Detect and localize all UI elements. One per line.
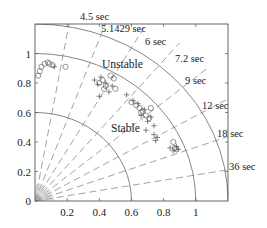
period-label: 6 sec [145,36,167,47]
cross-marker [92,77,98,83]
period-line [35,0,74,201]
x-tick-label: 0.4 [92,206,106,218]
circle-marker [171,139,176,144]
pole-zero-chart: 0.20.40.60.81 00.20.40.60.81 4.5 sec5.14… [0,0,267,228]
cross-marker [167,145,173,151]
y-tick-label: 0.8 [17,77,31,89]
cross-marker [175,147,181,153]
circle-marker [42,61,47,66]
x-tick-label: 0.8 [157,206,171,218]
period-line [35,98,230,201]
cross-marker [151,123,157,129]
circle-marker [113,86,118,91]
y-tick-label: 1 [26,48,32,60]
x-tick-label: 0.6 [125,206,139,218]
cross-marker [145,119,151,125]
region-label: Unstable [102,58,143,70]
circle-marker [47,61,52,66]
cross-marker [124,92,130,98]
period-line [35,130,247,201]
cross-marker [95,82,101,88]
cross-marker [106,89,112,95]
cross-marker [97,93,103,99]
circle-marker [63,64,68,69]
period-line [35,68,207,201]
cross-marker [143,127,149,133]
x-tick-label: 1 [193,206,199,218]
y-tick-label: 0.2 [17,166,31,178]
circle-marker [39,64,44,69]
cross-marker [51,64,57,70]
period-label: 12 sec [202,100,229,111]
region-annotations: UnstableStable [102,58,143,134]
x-tick-label: 0.2 [60,206,74,218]
y-tick-label: 0.4 [17,136,31,148]
circle-marker [143,113,148,118]
period-label: 9 sec [185,75,207,86]
origin-fan-lines [35,183,54,201]
period-label: 18 sec [217,128,244,139]
cross-marker [98,74,104,80]
cross-marker [154,135,160,141]
cross-marker [170,148,176,154]
y-tick-label: 0.6 [17,107,31,119]
period-label: 5.1429 sec [101,23,146,34]
period-label: 4.5 sec [80,11,109,22]
period-label: 7.2 sec [175,53,204,64]
circle-marker [45,60,50,65]
cross-marker [109,83,115,89]
period-line [35,7,112,201]
period-label: 36 sec [229,161,256,172]
region-label: Stable [111,122,140,134]
circle-marker [108,73,113,78]
y-tick-label: 0 [26,195,32,207]
circle-marker [148,105,153,110]
